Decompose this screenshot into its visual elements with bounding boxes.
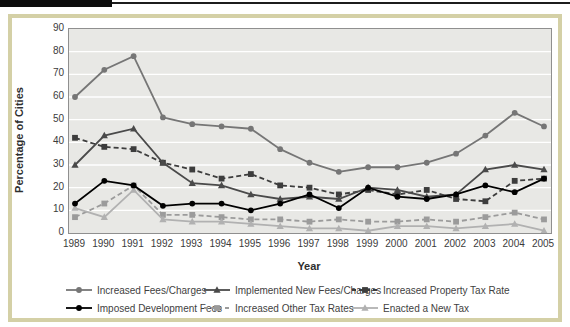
circle-marker <box>219 124 225 130</box>
circle-marker <box>248 207 254 213</box>
circle-marker <box>101 67 107 73</box>
square-marker <box>214 305 220 311</box>
chart-frame: Percentage of Cities 0102030405060708090… <box>8 14 562 322</box>
circle-marker <box>160 203 166 209</box>
y-tick-label: 10 <box>34 204 64 214</box>
square-marker <box>72 135 78 141</box>
square-marker <box>72 214 78 220</box>
circle-marker <box>76 305 82 311</box>
circle-marker <box>101 178 107 184</box>
circle-marker <box>131 183 137 189</box>
circle-marker <box>395 164 401 170</box>
y-tick-label: 60 <box>34 91 64 101</box>
square-marker <box>512 178 518 184</box>
legend-item: Enacted a New Tax <box>352 302 469 314</box>
y-tick-label: 40 <box>34 136 64 146</box>
circle-marker <box>307 192 313 198</box>
page: Percentage of Cities 0102030405060708090… <box>0 0 570 327</box>
legend-item: Increased Other Tax Rates <box>204 302 354 314</box>
y-tick-label: 20 <box>34 182 64 192</box>
circle-marker <box>219 201 225 207</box>
circle-marker <box>336 169 342 175</box>
series-line-4 <box>75 185 544 221</box>
circle-marker <box>453 151 459 157</box>
circle-marker <box>512 110 518 116</box>
square-legend-icon <box>352 285 378 295</box>
circle-marker <box>277 201 283 207</box>
square-marker <box>248 171 254 177</box>
square-marker <box>189 167 195 173</box>
square-marker <box>336 217 342 223</box>
circle-marker <box>482 133 488 139</box>
square-marker <box>424 217 430 223</box>
square-marker <box>365 219 371 225</box>
x-axis-title: Year <box>68 260 550 272</box>
circle-marker <box>189 201 195 207</box>
circle-marker <box>365 185 371 191</box>
circle-marker <box>76 287 82 293</box>
y-tick-label: 50 <box>34 114 64 124</box>
y-tick-label: 80 <box>34 46 64 56</box>
y-tick-label: 90 <box>34 23 64 33</box>
circle-marker <box>189 121 195 127</box>
square-marker <box>541 217 547 223</box>
square-marker <box>307 185 313 191</box>
header-accent-bar <box>0 0 112 7</box>
legend-item: Imposed Development Fees <box>66 302 222 314</box>
circle-legend-icon <box>66 303 92 313</box>
square-marker <box>189 212 195 218</box>
circle-legend-icon <box>66 285 92 295</box>
circle-marker <box>512 189 518 195</box>
legend-item: Increased Fees/Charges <box>66 284 207 296</box>
y-axis-title-text: Percentage of Cities <box>13 87 25 193</box>
circle-marker <box>72 201 78 207</box>
square-marker <box>219 176 225 182</box>
circle-marker <box>424 196 430 202</box>
legend-label: Increased Other Tax Rates <box>235 303 354 314</box>
circle-marker <box>248 126 254 132</box>
square-marker <box>482 214 488 220</box>
x-tick-label: 2005 <box>525 238 561 249</box>
square-marker <box>453 219 459 225</box>
square-marker <box>101 201 107 207</box>
circle-marker <box>72 94 78 100</box>
square-legend-icon <box>204 303 230 313</box>
circle-marker <box>336 205 342 211</box>
circle-marker <box>277 146 283 152</box>
plot-area <box>68 28 552 234</box>
square-marker <box>424 187 430 193</box>
circle-marker <box>307 160 313 166</box>
y-tick-label: 30 <box>34 159 64 169</box>
square-marker <box>482 198 488 204</box>
circle-marker <box>541 176 547 182</box>
circle-marker <box>395 194 401 200</box>
y-tick-label: 70 <box>34 68 64 78</box>
legend-label: Increased Property Tax Rate <box>383 285 510 296</box>
line-chart <box>69 29 551 233</box>
circle-marker <box>453 192 459 198</box>
circle-marker <box>365 164 371 170</box>
triangle-legend-icon <box>204 285 230 295</box>
triangle-legend-icon <box>352 303 378 313</box>
square-marker <box>307 219 313 225</box>
y-axis-title: Percentage of Cities <box>11 40 27 240</box>
circle-marker <box>160 115 166 121</box>
y-tick-label: 0 <box>34 227 64 237</box>
circle-marker <box>482 183 488 189</box>
square-marker <box>101 144 107 150</box>
square-marker <box>512 210 518 216</box>
square-marker <box>131 146 137 152</box>
square-marker <box>277 217 283 223</box>
circle-marker <box>131 53 137 59</box>
legend-label: Enacted a New Tax <box>383 303 469 314</box>
circle-marker <box>424 160 430 166</box>
square-marker <box>362 287 368 293</box>
legend-item: Increased Property Tax Rate <box>352 284 510 296</box>
triangle-marker <box>130 125 137 132</box>
square-marker <box>277 183 283 189</box>
legend-label: Increased Fees/Charges <box>97 285 207 296</box>
circle-marker <box>541 124 547 130</box>
